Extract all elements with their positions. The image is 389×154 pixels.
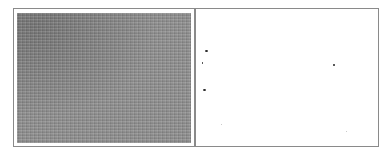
speck-mark: [203, 89, 206, 91]
speck-mark: [221, 124, 222, 125]
right-image-panel: [195, 8, 379, 147]
left-image-panel: [13, 8, 195, 147]
noise-texture-image: [17, 13, 191, 143]
speck-mark: [202, 62, 203, 64]
speck-mark: [205, 50, 208, 52]
speck-mark: [333, 64, 335, 66]
speck-mark: [346, 131, 347, 132]
